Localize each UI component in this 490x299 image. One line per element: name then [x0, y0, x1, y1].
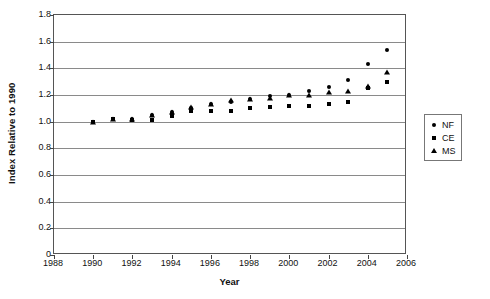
- data-point-ce: [268, 105, 272, 109]
- x-tick-label: 1994: [161, 258, 181, 268]
- x-tick-label: 1988: [43, 258, 63, 268]
- data-point-ms: [228, 98, 234, 103]
- data-point-ce: [385, 80, 389, 84]
- data-point-ce: [346, 100, 350, 104]
- gridline: [54, 148, 405, 149]
- y-tick-label: 1.4: [21, 62, 51, 72]
- x-tick-label: 1990: [82, 258, 102, 268]
- data-point-nf: [327, 85, 331, 89]
- y-tick-label: 1.8: [21, 9, 51, 19]
- data-point-ms: [365, 83, 371, 88]
- y-tick-label: 1.6: [21, 36, 51, 46]
- data-point-ce: [327, 102, 331, 106]
- data-point-ms: [384, 70, 390, 75]
- data-point-ce: [209, 109, 213, 113]
- data-point-ms: [188, 105, 194, 110]
- data-point-ms: [247, 97, 253, 102]
- y-tick-label: 0.8: [21, 142, 51, 152]
- data-point-ce: [189, 109, 193, 113]
- data-point-ce: [229, 109, 233, 113]
- legend-item-ce[interactable]: CE: [428, 131, 456, 144]
- scatter-chart: Index Relative to 1990 00.20.40.60.81.01…: [0, 0, 490, 299]
- circle-marker-icon: [428, 123, 440, 127]
- data-point-ms: [345, 89, 351, 94]
- x-tick-label: 1998: [239, 258, 259, 268]
- legend-item-ms[interactable]: MS: [428, 144, 456, 157]
- y-tick-mark: [50, 122, 54, 123]
- data-point-ce: [170, 114, 174, 118]
- y-tick-mark: [50, 148, 54, 149]
- y-tick-mark: [50, 202, 54, 203]
- y-tick-mark: [50, 42, 54, 43]
- legend-item-label: NF: [440, 120, 454, 130]
- data-point-nf: [346, 78, 350, 82]
- y-tick-mark: [50, 175, 54, 176]
- plot-area: [53, 14, 406, 254]
- y-axis-tick-labels: 00.20.40.60.81.01.21.41.61.8: [15, 0, 51, 299]
- y-tick-mark: [50, 228, 54, 229]
- data-point-nf: [366, 62, 370, 66]
- gridline: [54, 175, 405, 176]
- y-tick-label: 0.2: [21, 222, 51, 232]
- y-tick-label: 0.4: [21, 196, 51, 206]
- x-tick-label: 1996: [200, 258, 220, 268]
- gridline: [54, 228, 405, 229]
- x-axis-title: Year: [53, 276, 406, 287]
- data-point-ms: [129, 117, 135, 122]
- y-tick-label: 1.0: [21, 116, 51, 126]
- gridline: [54, 122, 405, 123]
- gridline: [54, 68, 405, 69]
- gridline: [54, 202, 405, 203]
- data-point-ms: [286, 93, 292, 98]
- gridline: [54, 42, 405, 43]
- data-point-nf: [385, 48, 389, 52]
- data-point-ce: [307, 104, 311, 108]
- x-tick-label: 2004: [357, 258, 377, 268]
- data-point-ms: [169, 110, 175, 115]
- triangle-marker-icon: [428, 148, 440, 153]
- chart-legend: NF CE MS: [424, 114, 462, 161]
- legend-item-nf[interactable]: NF: [428, 118, 456, 131]
- data-point-ms: [267, 95, 273, 100]
- data-point-ms: [90, 119, 96, 124]
- legend-item-label: CE: [440, 133, 455, 143]
- x-tick-label: 1992: [121, 258, 141, 268]
- data-point-ms: [110, 117, 116, 122]
- data-point-ms: [149, 113, 155, 118]
- square-marker-icon: [428, 136, 440, 140]
- data-point-ce: [287, 104, 291, 108]
- y-tick-mark: [50, 68, 54, 69]
- x-tick-label: 2002: [318, 258, 338, 268]
- x-tick-label: 2000: [278, 258, 298, 268]
- data-point-ce: [150, 118, 154, 122]
- data-point-ms: [208, 102, 214, 107]
- y-tick-label: 1.2: [21, 89, 51, 99]
- data-point-ce: [248, 106, 252, 110]
- data-point-ms: [326, 90, 332, 95]
- y-tick-mark: [50, 95, 54, 96]
- x-tick-label: 2006: [396, 258, 416, 268]
- data-point-ms: [306, 93, 312, 98]
- legend-item-label: MS: [440, 146, 456, 156]
- y-tick-label: 0.6: [21, 169, 51, 179]
- gridline: [54, 95, 405, 96]
- y-tick-mark: [50, 15, 54, 16]
